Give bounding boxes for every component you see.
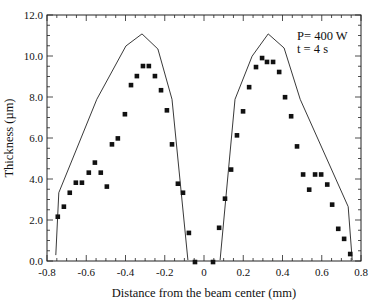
y-tick-labels: 0.02.04.06.08.010.012.0 [24,9,44,267]
y-tick-label: 6.0 [29,132,43,144]
data-point [319,172,324,177]
x-axis-label: Distance from the beam center (mm) [112,286,296,300]
thickness-chart: -0.8-0.6-0.4-0.200.20.40.60.8 0.02.04.06… [0,0,377,304]
data-point [55,214,60,219]
y-axis-label: Thickness (µm) [2,98,16,177]
x-tick-label: -0.2 [156,266,173,278]
data-point [223,196,228,201]
x-tick-label: 0.6 [315,266,329,278]
data-point [265,60,270,65]
data-point [348,252,353,257]
x-tick-label: 0 [201,266,207,278]
data-point [271,60,276,65]
x-tick-label: -0.4 [117,266,135,278]
calculated-curve [56,34,352,260]
data-point [325,182,330,187]
data-point [116,136,121,141]
data-point [135,74,140,79]
data-point [330,202,335,207]
data-point [313,172,318,177]
data-point [62,204,67,209]
y-tick-label: 2.0 [29,214,43,226]
data-point [229,167,234,172]
data-point [187,231,192,236]
data-point [336,227,341,232]
y-tick-label: 4.0 [29,173,43,185]
y-tick-label: 0.0 [29,255,43,267]
data-point [153,74,158,79]
x-tick-label: -0.6 [78,266,96,278]
data-point [147,64,152,69]
data-point [93,160,98,165]
data-point [193,260,198,265]
data-point [87,170,92,175]
data-point [254,65,259,70]
data-point [260,56,265,61]
y-tick-label: 8.0 [29,91,43,103]
data-point [211,260,216,265]
data-point [277,70,282,75]
data-point [80,180,85,185]
calculated-line [56,34,188,260]
data-point [141,64,146,69]
data-point [342,237,347,242]
data-point [235,133,240,138]
data-point [307,187,312,192]
data-point [181,190,186,195]
x-tick-label: 0.2 [236,266,250,278]
data-point [98,170,103,175]
data-point [129,83,134,88]
data-point [247,85,252,90]
data-point [289,114,294,119]
data-point [110,142,115,147]
data-point [165,108,170,113]
data-point [123,112,128,117]
x-tick-label: 0.8 [354,266,368,278]
annotation-time: t = 4 s [297,42,328,56]
data-point [105,184,110,189]
measured-points [55,56,352,265]
data-point [159,88,164,93]
data-point [170,142,175,147]
x-tick-label: 0.4 [276,266,290,278]
data-point [217,225,222,230]
x-tick-labels: -0.8-0.6-0.4-0.200.20.40.60.8 [38,266,368,278]
data-point [301,172,306,177]
data-point [176,181,181,186]
x-tick-label: -0.8 [38,266,56,278]
data-point [241,109,246,114]
data-point [283,95,288,100]
y-tick-label: 12.0 [24,9,44,21]
calculated-line [220,34,352,260]
data-point [74,180,79,185]
y-tick-label: 10.0 [24,50,44,62]
data-point [295,144,300,149]
data-point [67,190,72,195]
annotation-power: P= 400 W [297,29,348,43]
